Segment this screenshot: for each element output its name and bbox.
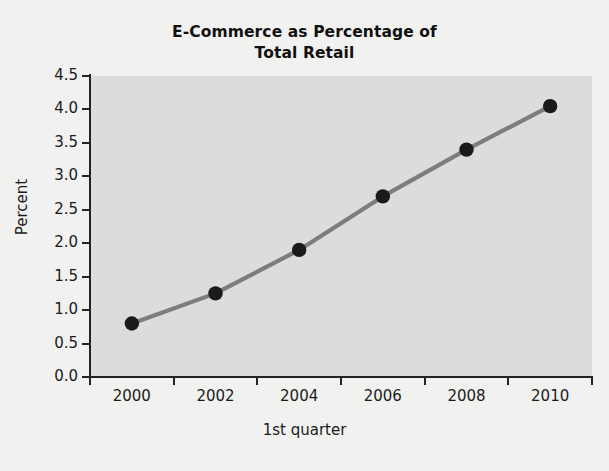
chart-figure: E-Commerce as Percentage of Total Retail…	[0, 0, 609, 471]
x-tick-mark	[256, 377, 258, 385]
y-tick-label: 1.5	[28, 269, 78, 284]
y-tick-label: 4.0	[28, 101, 78, 116]
y-tick-mark	[82, 242, 89, 244]
y-tick-mark	[82, 142, 89, 144]
data-point-marker: 2004: 1.9	[292, 243, 306, 257]
x-axis-title: 1st quarter	[0, 421, 609, 439]
data-line	[132, 106, 550, 323]
y-tick-label: 2.0	[28, 235, 78, 250]
y-tick-label: 0.5	[28, 336, 78, 351]
data-point-marker: 2006: 2.7	[376, 189, 390, 203]
x-tick-label: 2010	[510, 388, 590, 404]
y-tick-mark	[82, 376, 89, 378]
y-tick-mark	[82, 75, 89, 77]
x-tick-mark	[591, 377, 593, 385]
chart-title-line-1: E-Commerce as Percentage of	[0, 22, 609, 43]
chart-title-line-2: Total Retail	[0, 43, 609, 64]
y-axis-line	[89, 74, 91, 379]
x-tick-label: 2006	[343, 388, 423, 404]
x-tick-mark	[89, 377, 91, 385]
y-tick-label: 2.5	[28, 202, 78, 217]
x-tick-mark	[173, 377, 175, 385]
y-tick-mark	[82, 276, 89, 278]
y-tick-label: 4.5	[28, 68, 78, 83]
x-tick-mark	[507, 377, 509, 385]
y-tick-label: 3.0	[28, 168, 78, 183]
y-tick-mark	[82, 343, 89, 345]
x-tick-mark	[424, 377, 426, 385]
y-tick-label: 1.0	[28, 302, 78, 317]
y-tick-label: 3.5	[28, 135, 78, 150]
data-point-marker: 2010: 4.05	[543, 99, 557, 113]
x-tick-label: 2004	[259, 388, 339, 404]
y-tick-mark	[82, 309, 89, 311]
y-tick-mark	[82, 209, 89, 211]
data-series-svg: 2000: 0.82002: 1.252004: 1.92006: 2.7200…	[90, 76, 592, 377]
data-point-marker: 2002: 1.25	[208, 286, 222, 300]
x-tick-label: 2000	[92, 388, 172, 404]
y-axis-title: Percent	[13, 147, 31, 267]
x-tick-label: 2008	[427, 388, 507, 404]
x-tick-mark	[340, 377, 342, 385]
y-tick-mark	[82, 108, 89, 110]
data-point-marker: 2000: 0.8	[125, 316, 139, 330]
plot-area: 2000: 0.82002: 1.252004: 1.92006: 2.7200…	[90, 76, 592, 377]
y-tick-mark	[82, 175, 89, 177]
y-tick-label: 0.0	[28, 369, 78, 384]
data-point-marker: 2008: 3.4	[459, 142, 473, 156]
x-tick-label: 2002	[176, 388, 256, 404]
chart-title: E-Commerce as Percentage of Total Retail	[0, 22, 609, 64]
